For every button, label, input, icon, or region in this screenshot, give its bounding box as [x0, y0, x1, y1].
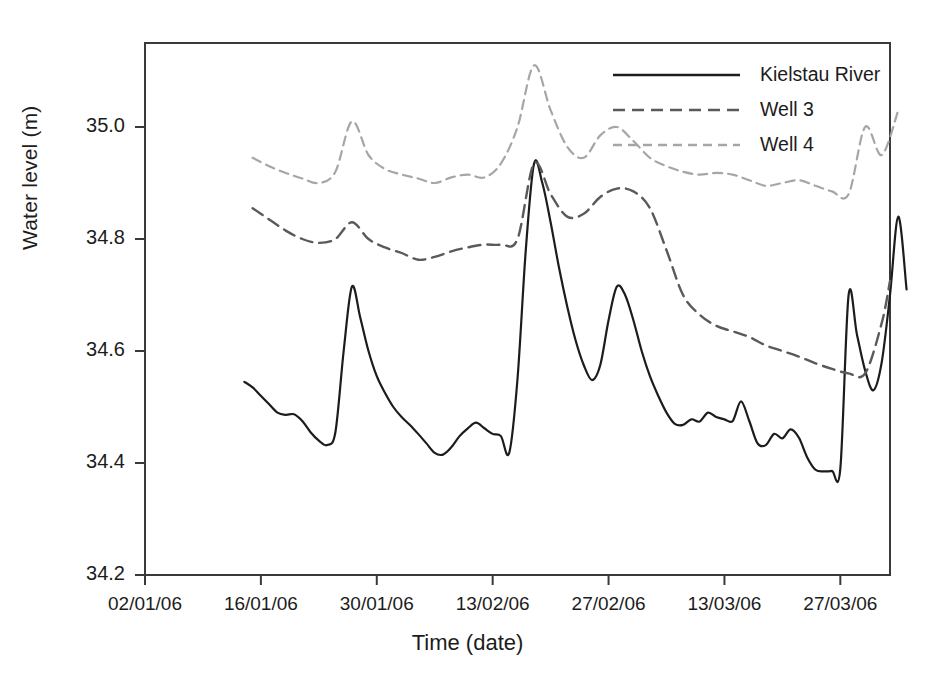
y-tick-label: 34.2	[40, 562, 125, 585]
x-tick-label: 13/03/06	[664, 593, 784, 615]
series-line-well-3	[253, 162, 890, 377]
y-tick-label: 34.8	[40, 226, 125, 249]
water-level-chart: Water level (m) Time (date) 34.234.434.6…	[0, 0, 935, 695]
y-tick-label: 34.6	[40, 338, 125, 361]
x-tick-label: 27/02/06	[549, 593, 669, 615]
x-tick-label: 30/01/06	[317, 593, 437, 615]
x-tick-label: 27/03/06	[780, 593, 900, 615]
data-series-group	[244, 65, 906, 482]
x-axis-title: Time (date)	[0, 630, 935, 656]
x-tick-label: 16/01/06	[201, 593, 321, 615]
legend-label-well-4: Well 4	[760, 133, 814, 156]
y-tick-label: 35.0	[40, 114, 125, 137]
plot-frame	[145, 43, 890, 575]
x-tick-label: 13/02/06	[433, 593, 553, 615]
legend-lines-group	[613, 75, 740, 145]
series-line-kielstau-river	[244, 160, 906, 482]
legend-label-well-3: Well 3	[760, 98, 814, 121]
y-axis-title: Water level (m)	[18, 0, 42, 250]
legend-label-kielstau-river: Kielstau River	[760, 63, 880, 86]
x-tick-marks	[145, 575, 840, 585]
y-tick-label: 34.4	[40, 450, 125, 473]
x-tick-label: 02/01/06	[85, 593, 205, 615]
y-tick-marks	[135, 127, 145, 575]
